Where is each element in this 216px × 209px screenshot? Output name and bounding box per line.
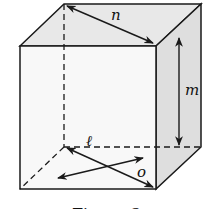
label-l: ℓ (86, 132, 92, 150)
label-n: n (111, 6, 121, 24)
figure-caption: Figure 3 (72, 205, 141, 209)
front-face (20, 46, 156, 189)
label-o: o (137, 163, 146, 181)
label-m: m (185, 81, 199, 99)
cube-diagram: n m ℓ o Figure 3 (0, 0, 216, 209)
